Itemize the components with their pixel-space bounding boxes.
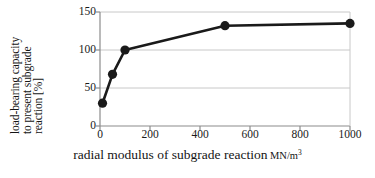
x-tick-label-1000: 1000 — [339, 129, 362, 141]
x-tick-label-0: 0 — [97, 129, 103, 141]
data-point — [345, 19, 354, 28]
x-tick-label-400: 400 — [191, 129, 208, 141]
data-point — [108, 70, 117, 79]
series-line — [103, 23, 351, 103]
x-tick-label-600: 600 — [241, 129, 258, 141]
data-point — [120, 45, 129, 54]
x-axis-tick-labels: 0 200 400 600 800 1000 — [0, 129, 375, 145]
x-axis-unit-text: MN/m — [270, 150, 298, 161]
data-point — [98, 99, 107, 108]
chart-figure: load-bearing capacity to present subgrad… — [0, 0, 375, 178]
series-markers — [98, 19, 355, 108]
data-point — [220, 21, 229, 30]
data-series — [98, 19, 355, 108]
x-axis-unit-exponent: 3 — [298, 148, 302, 157]
x-tick-label-800: 800 — [291, 129, 308, 141]
x-axis-title: radial modulus of subgrade reaction MN/m… — [0, 148, 375, 162]
x-axis-title-text: radial modulus of subgrade reaction — [73, 147, 267, 162]
x-tick-label-200: 200 — [141, 129, 158, 141]
